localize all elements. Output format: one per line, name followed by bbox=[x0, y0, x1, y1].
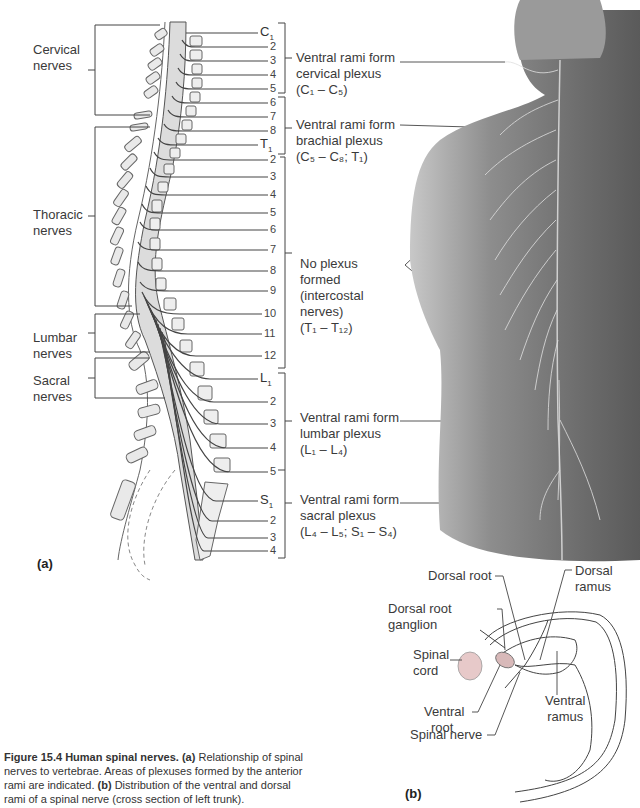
region-label-cervical: Cervical nerves bbox=[33, 42, 80, 74]
region-name: Sacral bbox=[33, 373, 72, 389]
segment-label: S1 bbox=[260, 492, 273, 510]
panel-label-b: (b) bbox=[405, 786, 422, 801]
region-subname: nerves bbox=[33, 58, 80, 74]
plexus-range: (L₁ – L₄) bbox=[300, 442, 399, 458]
segment-label: 2 bbox=[270, 153, 276, 165]
plexus-label-sacral: Ventral rami form sacral plexus (L₄ – L₅… bbox=[300, 492, 399, 540]
segment-label: C1 bbox=[260, 24, 274, 42]
segment-subscript: 1 bbox=[269, 501, 273, 510]
plexus-line: formed bbox=[300, 272, 364, 288]
segment-label: 6 bbox=[270, 223, 276, 235]
segment-label: L1 bbox=[260, 370, 272, 388]
plexus-label-lumbar: Ventral rami form lumbar plexus (L₁ – L₄… bbox=[300, 410, 399, 458]
plexus-line: sacral plexus bbox=[300, 508, 399, 524]
plexus-label-intercostal: No plexus formed (intercostal nerves) (T… bbox=[300, 256, 364, 336]
label-line: Dorsal bbox=[575, 563, 613, 579]
plexus-line: Ventral rami form bbox=[300, 410, 399, 426]
region-subname: nerves bbox=[33, 346, 77, 362]
region-subname: nerves bbox=[33, 223, 83, 239]
segment-label: 7 bbox=[270, 110, 276, 122]
label-line: Ventral bbox=[424, 704, 464, 720]
plexus-line: Ventral rami form bbox=[296, 117, 395, 133]
segment-label: 11 bbox=[264, 327, 275, 339]
segment-label: 8 bbox=[270, 124, 276, 136]
plexus-range: (L₄ – L₅; S₁ – S₄) bbox=[300, 524, 399, 540]
label-line: Dorsal root bbox=[388, 601, 452, 617]
label-line: ramus bbox=[575, 579, 613, 595]
plexus-line: Ventral rami form bbox=[296, 50, 395, 66]
label-line: Spinal bbox=[413, 647, 449, 663]
segment-label: 4 bbox=[270, 188, 276, 200]
caption-part-b-marker: (b) bbox=[98, 779, 112, 791]
segment-label: 3 bbox=[270, 170, 276, 182]
label-spinal-cord: Spinal cord bbox=[413, 647, 449, 679]
segment-label: 2 bbox=[270, 40, 276, 52]
plexus-label-brachial: Ventral rami form brachial plexus (C₅ – … bbox=[296, 117, 395, 165]
segment-label: 5 bbox=[270, 465, 276, 477]
plexus-line: cervical plexus bbox=[296, 66, 395, 82]
panel-label-a: (a) bbox=[37, 556, 53, 571]
label-dorsal-root-ganglion: Dorsal root ganglion bbox=[388, 601, 452, 633]
label-ventral-ramus: Ventral ramus bbox=[545, 693, 585, 725]
segment-label: 12 bbox=[264, 349, 276, 361]
segment-label: 5 bbox=[270, 82, 276, 94]
segment-label: 7 bbox=[270, 243, 276, 255]
region-name: Cervical bbox=[33, 42, 80, 58]
segment-label: 8 bbox=[270, 264, 276, 276]
segment-label: 6 bbox=[270, 96, 276, 108]
segment-label: 3 bbox=[270, 531, 276, 543]
segment-label: T1 bbox=[260, 136, 272, 154]
figure-number: Figure 15.4 bbox=[4, 751, 62, 763]
region-label-lumbar: Lumbar nerves bbox=[33, 330, 77, 362]
segment-subscript: 1 bbox=[267, 379, 271, 388]
label-dorsal-root: Dorsal root bbox=[428, 568, 492, 584]
plexus-line: (intercostal bbox=[300, 288, 364, 304]
segment-label: 3 bbox=[270, 54, 276, 66]
label-line: ramus bbox=[545, 709, 585, 725]
dorsal-root-ganglion bbox=[493, 649, 517, 671]
segment-label: 5 bbox=[270, 206, 276, 218]
plexus-range: (T₁ – T₁₂) bbox=[300, 320, 364, 336]
region-name: Thoracic bbox=[33, 207, 83, 223]
figure-title: Human spinal nerves. bbox=[65, 751, 179, 763]
region-label-thoracic: Thoracic nerves bbox=[33, 207, 83, 239]
segment-label: 3 bbox=[270, 417, 276, 429]
segment-label: 4 bbox=[270, 544, 276, 556]
label-dorsal-ramus: Dorsal ramus bbox=[575, 563, 613, 595]
segment-label: 2 bbox=[270, 395, 276, 407]
segment-label: 4 bbox=[270, 68, 276, 80]
plexus-range: (C₁ – C₅) bbox=[296, 82, 395, 98]
label-line: Ventral bbox=[545, 693, 585, 709]
plexus-range: (C₅ – C₈; T₁) bbox=[296, 149, 395, 165]
segment-label: 4 bbox=[270, 441, 276, 453]
region-label-sacral: Sacral nerves bbox=[33, 373, 72, 405]
segment-label: 10 bbox=[264, 307, 276, 319]
plexus-line: lumbar plexus bbox=[300, 426, 399, 442]
figure-caption: Figure 15.4 Human spinal nerves. (a) Rel… bbox=[4, 750, 304, 806]
label-spinal-nerve: Spinal nerve bbox=[410, 727, 482, 743]
label-line: cord bbox=[413, 663, 449, 679]
segment-label: 9 bbox=[270, 284, 276, 296]
plexus-label-cervical: Ventral rami form cervical plexus (C₁ – … bbox=[296, 50, 395, 98]
region-name: Lumbar bbox=[33, 330, 77, 346]
torso-back bbox=[410, 10, 640, 561]
spinal-cord-section bbox=[458, 652, 482, 680]
plexus-line: brachial plexus bbox=[296, 133, 395, 149]
plexus-line: Ventral rami form bbox=[300, 492, 399, 508]
region-subname: nerves bbox=[33, 389, 72, 405]
plexus-line: nerves) bbox=[300, 304, 364, 320]
segment-label: 2 bbox=[270, 514, 276, 526]
caption-part-a-marker: (a) bbox=[182, 751, 195, 763]
plexus-line: No plexus bbox=[300, 256, 364, 272]
label-line: ganglion bbox=[388, 617, 452, 633]
